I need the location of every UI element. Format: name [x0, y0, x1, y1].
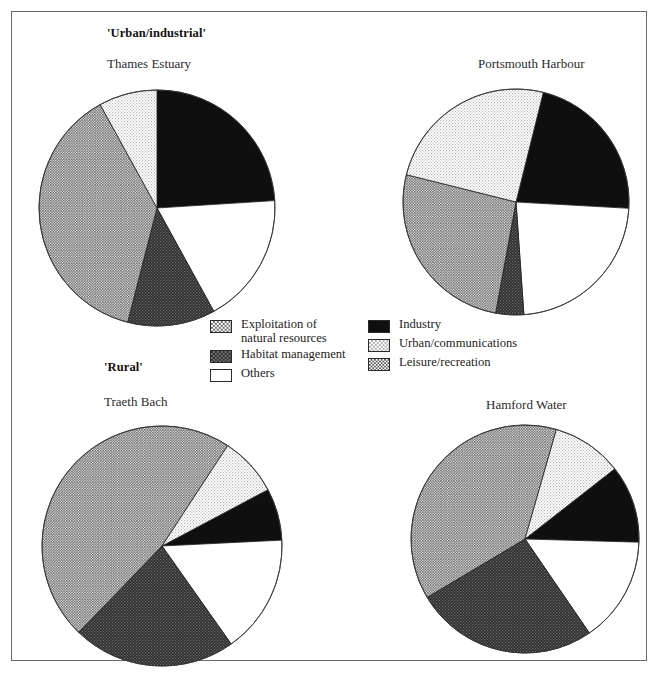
legend-column-right: IndustryUrban/communicationsLeisure/recr…: [368, 318, 560, 375]
legend-swatch-habitat: [210, 350, 232, 363]
group-label-urban-industrial: 'Urban/industrial': [107, 26, 206, 41]
legend-item-industry[interactable]: Industry: [368, 318, 560, 333]
legend-item-leisure[interactable]: Leisure/recreation: [368, 356, 560, 371]
legend-label-others: Others: [241, 367, 275, 381]
legend-item-others[interactable]: Others: [210, 367, 370, 382]
legend-column-left: Exploitation of natural resourcesHabitat…: [210, 318, 370, 386]
legend-label-industry: Industry: [399, 318, 441, 332]
legend-label-exploitation: Exploitation of natural resources: [241, 318, 327, 345]
legend-swatch-industry: [368, 320, 390, 333]
pie-title-thames-estuary: Thames Estuary: [107, 56, 191, 72]
group-label-rural: 'Rural': [104, 360, 143, 375]
pie-slice-others: [516, 202, 629, 315]
pie-title-portsmouth-harbour: Portsmouth Harbour: [478, 56, 585, 72]
pie-title-hamford-water: Hamford Water: [486, 397, 567, 413]
legend-item-exploitation[interactable]: Exploitation of natural resources: [210, 318, 370, 345]
legend-label-urban: Urban/communications: [399, 337, 517, 351]
figure-frame: 'Urban/industrial' 'Rural' Thames Estuar…: [11, 11, 647, 661]
pie-chart-traeth-bach: [40, 424, 284, 668]
pie-title-traeth-bach: Traeth Bach: [104, 394, 167, 410]
legend-label-leisure: Leisure/recreation: [399, 356, 491, 370]
legend-label-habitat: Habitat management: [241, 348, 346, 362]
pie-slice-industry: [157, 90, 275, 208]
legend-swatch-exploitation: [210, 320, 232, 333]
legend-swatch-urban: [368, 339, 390, 352]
legend-swatch-leisure: [368, 358, 390, 371]
legend-item-urban[interactable]: Urban/communications: [368, 337, 560, 352]
chart-legend: Exploitation of natural resourcesHabitat…: [210, 318, 560, 384]
pie-chart-portsmouth-harbour: [401, 87, 631, 317]
legend-swatch-others: [210, 369, 232, 382]
pie-chart-thames-estuary: [37, 88, 277, 328]
pie-chart-hamford-water: [409, 423, 641, 655]
legend-item-habitat[interactable]: Habitat management: [210, 348, 370, 363]
